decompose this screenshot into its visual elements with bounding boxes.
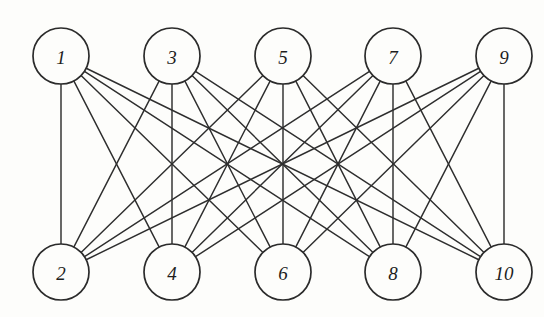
graph-node-6[interactable]: 6 — [255, 244, 311, 300]
graph-node-8[interactable]: 8 — [365, 244, 421, 300]
graph-canvas: 13579246810 — [0, 0, 544, 317]
node-label: 8 — [388, 263, 398, 284]
node-label: 10 — [495, 263, 515, 284]
node-label: 4 — [167, 263, 177, 284]
node-label: 7 — [388, 47, 399, 68]
graph-node-5[interactable]: 5 — [255, 28, 311, 84]
node-label: 6 — [278, 263, 288, 284]
graph-node-1[interactable]: 1 — [33, 28, 89, 84]
graph-node-4[interactable]: 4 — [144, 244, 200, 300]
node-label: 5 — [278, 47, 288, 68]
node-label: 2 — [56, 263, 66, 284]
edge-layer — [61, 68, 504, 259]
graph-node-2[interactable]: 2 — [33, 244, 89, 300]
bipartite-graph-figure: 13579246810 — [0, 0, 544, 317]
graph-node-9[interactable]: 9 — [476, 28, 532, 84]
graph-node-7[interactable]: 7 — [365, 28, 421, 84]
node-label: 9 — [499, 47, 509, 68]
node-label: 3 — [166, 47, 177, 68]
node-label: 1 — [56, 47, 66, 68]
graph-node-3[interactable]: 3 — [144, 28, 200, 84]
graph-node-10[interactable]: 10 — [476, 244, 532, 300]
